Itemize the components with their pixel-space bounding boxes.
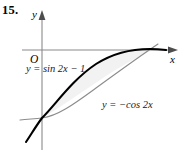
upper-curve-label: y = sin 2x − 1 bbox=[25, 63, 85, 74]
figure-container: 15. y x O y = sin 2x − 1 y = −cos 2x bbox=[0, 0, 185, 154]
plot-canvas: y x O y = sin 2x − 1 y = −cos 2x bbox=[0, 0, 185, 154]
y-axis-label: y bbox=[31, 8, 37, 20]
x-axis-label: x bbox=[169, 53, 175, 65]
lower-curve-label: y = −cos 2x bbox=[101, 99, 153, 110]
y-axis-arrowhead bbox=[39, 10, 46, 20]
